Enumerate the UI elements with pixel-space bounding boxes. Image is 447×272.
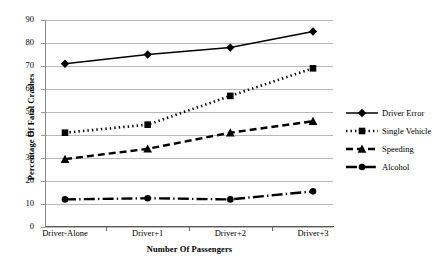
series-alcohol <box>62 188 317 203</box>
series-driver-error <box>61 27 317 68</box>
y-axis-tick-label: 90 <box>8 15 34 24</box>
legend-item-label: Driver Error <box>379 108 424 118</box>
data-point-marker <box>143 50 151 58</box>
x-axis-tick-label: Driver-Alone <box>20 228 110 238</box>
legend-marker-icon <box>345 124 379 138</box>
legend-item[interactable]: Speeding <box>345 140 445 158</box>
series-line <box>65 32 313 64</box>
data-point-marker <box>227 93 234 100</box>
data-point-marker <box>62 129 69 136</box>
x-axis-tick-label: Driver+1 <box>103 228 193 238</box>
x-axis-tick-label: Driver+2 <box>185 228 275 238</box>
y-axis-tick-label: 30 <box>8 153 34 162</box>
y-axis-tick-label: 70 <box>8 61 34 70</box>
plot-area <box>45 20 333 227</box>
series-line <box>65 121 313 159</box>
legend-marker-icon <box>345 142 379 156</box>
y-axis-tick-label: 40 <box>8 130 34 139</box>
legend-marker-icon <box>345 160 379 174</box>
legend-item[interactable]: Single Vehicle <box>345 122 445 140</box>
y-axis-tick-label: 60 <box>8 84 34 93</box>
data-point-marker <box>359 128 366 135</box>
y-axis-tick-label: 80 <box>8 38 34 47</box>
series-line <box>65 68 313 132</box>
legend-item[interactable]: Driver Error <box>345 104 445 122</box>
data-point-marker <box>144 195 151 202</box>
series-speeding <box>61 117 318 163</box>
data-point-marker <box>359 164 366 171</box>
y-axis-tick-label: 50 <box>8 107 34 116</box>
data-point-marker <box>61 60 69 68</box>
data-point-marker <box>310 188 317 195</box>
data-point-marker <box>358 109 366 117</box>
data-point-marker <box>310 65 317 72</box>
chart-legend: Driver ErrorSingle VehicleSpeedingAlcoho… <box>345 104 445 176</box>
legend-item-label: Alcohol <box>379 162 409 172</box>
x-axis-tick-label: Driver+3 <box>268 228 358 238</box>
legend-item-label: Speeding <box>379 144 414 154</box>
legend-item-label: Single Vehicle <box>379 126 431 136</box>
x-axis-title: Number Of Passengers <box>45 244 334 254</box>
chart-figure: Percentage Of Fatal Crashes 908070605040… <box>0 0 447 272</box>
data-point-marker <box>226 43 234 51</box>
y-axis-tick-label: 20 <box>8 176 34 185</box>
legend-marker-icon <box>345 106 379 120</box>
data-point-marker <box>309 27 317 35</box>
data-point-marker <box>144 121 151 128</box>
data-point-marker <box>62 196 69 203</box>
series-group <box>45 20 333 227</box>
y-axis-tick-label: 10 <box>8 199 34 208</box>
series-line <box>65 191 313 199</box>
legend-item[interactable]: Alcohol <box>345 158 445 176</box>
data-point-marker <box>227 196 234 203</box>
